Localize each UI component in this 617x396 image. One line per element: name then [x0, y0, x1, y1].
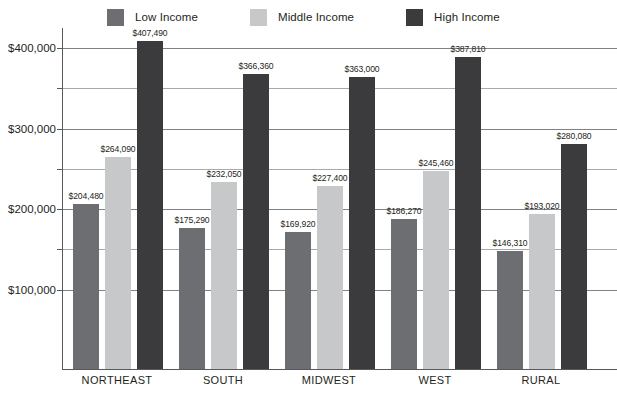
bar[interactable]: $186,270 [391, 219, 417, 369]
bar[interactable]: $407,490 [137, 41, 163, 369]
bar-value-label: $193,020 [524, 201, 559, 211]
x-axis-label: MIDWEST [302, 374, 356, 386]
x-axis-label: NORTHEAST [82, 374, 153, 386]
y-axis-tick [57, 209, 63, 210]
legend-label-low-income: Low Income [135, 11, 198, 23]
y-axis-label: $400,000 [8, 42, 56, 54]
bar[interactable]: $280,080 [561, 144, 587, 369]
bar-group: $169,920$227,400$363,000 [285, 28, 375, 369]
bar-value-label: $264,090 [100, 144, 135, 154]
x-axis-label: SOUTH [203, 374, 243, 386]
y-axis-labels: $100,000$200,000$300,000$400,000 [0, 28, 56, 370]
legend-swatch-low-income [107, 9, 124, 26]
bar-value-label: $245,460 [418, 158, 453, 168]
legend-item-middle-income[interactable]: Middle Income [250, 9, 354, 26]
bar[interactable]: $146,310 [497, 251, 523, 369]
bar[interactable]: $366,360 [243, 74, 269, 369]
legend-item-high-income[interactable]: High Income [406, 9, 500, 26]
bar-value-label: $175,290 [174, 215, 209, 225]
legend-label-high-income: High Income [434, 11, 500, 23]
bar[interactable]: $232,050 [211, 182, 237, 369]
bar-value-label: $366,360 [238, 61, 273, 71]
y-axis-tick [57, 48, 63, 49]
y-axis-label: $100,000 [8, 284, 56, 296]
y-axis-label: $300,000 [8, 123, 56, 135]
bar[interactable]: $204,480 [73, 204, 99, 369]
bar[interactable]: $227,400 [317, 186, 343, 369]
bar-value-label: $186,270 [386, 206, 421, 216]
bar-value-label: $387,810 [450, 44, 485, 54]
x-axis-labels: NORTHEASTSOUTHMIDWESTWESTRURAL [62, 374, 617, 394]
bar-group: $204,480$264,090$407,490 [73, 28, 163, 369]
x-axis-label: WEST [418, 374, 451, 386]
y-axis-tick [57, 290, 63, 291]
legend-swatch-high-income [406, 9, 423, 26]
legend-swatch-middle-income [250, 9, 267, 26]
bar-value-label: $146,310 [492, 238, 527, 248]
bar-value-label: $232,050 [206, 169, 241, 179]
y-axis-tick [57, 249, 63, 250]
bar[interactable]: $175,290 [179, 228, 205, 369]
bar-group: $146,310$193,020$280,080 [497, 28, 587, 369]
y-axis-tick [57, 88, 63, 89]
legend-item-low-income[interactable]: Low Income [107, 9, 198, 26]
bar[interactable]: $363,000 [349, 77, 375, 369]
bar-value-label: $204,480 [68, 191, 103, 201]
y-axis-tick [57, 169, 63, 170]
bar[interactable]: $245,460 [423, 171, 449, 369]
y-axis-tick [57, 129, 63, 130]
bar-value-label: $227,400 [312, 173, 347, 183]
bar-value-label: $407,490 [132, 28, 167, 38]
y-axis-label: $200,000 [8, 203, 56, 215]
legend-label-middle-income: Middle Income [278, 11, 354, 23]
plot-area: $204,480$264,090$407,490$175,290$232,050… [62, 28, 617, 370]
bar-value-label: $280,080 [556, 131, 591, 141]
bar-value-label: $169,920 [280, 219, 315, 229]
bar-group: $186,270$245,460$387,810 [391, 28, 481, 369]
bar-group: $175,290$232,050$366,360 [179, 28, 269, 369]
bar[interactable]: $387,810 [455, 57, 481, 369]
bar-value-label: $363,000 [344, 64, 379, 74]
bar[interactable]: $193,020 [529, 214, 555, 369]
bar[interactable]: $264,090 [105, 157, 131, 370]
bar[interactable]: $169,920 [285, 232, 311, 369]
chart-legend: Low Income Middle Income High Income [0, 6, 617, 28]
x-axis-label: RURAL [521, 374, 560, 386]
bar-chart: Low Income Middle Income High Income $10… [0, 0, 617, 396]
